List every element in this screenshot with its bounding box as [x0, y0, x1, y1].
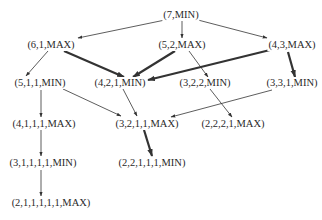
- edge-arrow: [78, 20, 165, 38]
- tree-node: (4,1,1,1,MAX): [12, 118, 77, 130]
- tree-node: (3,2,1,1,MAX): [115, 118, 180, 130]
- edge-arrow: [26, 51, 48, 76]
- tree-node: (4,2,1,MIN): [93, 77, 146, 89]
- edge-arrow: [123, 89, 137, 116]
- edge-arrow-bold: [64, 51, 124, 77]
- edge-arrow: [189, 51, 208, 77]
- tree-node: (5,2,MAX): [157, 39, 206, 51]
- tree-node: (5,1,1,MIN): [13, 77, 66, 89]
- edge-arrow: [198, 20, 267, 38]
- edge-arrow-bold: [144, 130, 152, 156]
- tree-node: (6,1,MAX): [26, 39, 75, 51]
- tree-node: (3,2,2,MIN): [178, 77, 231, 89]
- game-tree-diagram: (7,MIN)(6,1,MAX)(5,2,MAX)(4,3,MAX)(5,1,1…: [0, 0, 322, 220]
- tree-node: (3,1,1,1,1,MIN): [9, 157, 78, 169]
- edges-layer: [0, 0, 322, 220]
- edge-arrow: [63, 89, 121, 116]
- tree-node: (2,1,1,1,1,1,MAX): [11, 197, 92, 209]
- tree-node: (2,2,2,1,MAX): [201, 118, 266, 130]
- tree-node: (7,MIN): [162, 9, 199, 21]
- edge-arrow-bold: [133, 51, 175, 77]
- edge-arrow: [210, 89, 232, 117]
- tree-node: (4,3,MAX): [267, 39, 316, 51]
- tree-node: (2,2,1,1,1,MIN): [118, 157, 187, 169]
- edge-arrow-bold: [288, 52, 295, 77]
- tree-node: (3,3,1,MIN): [265, 77, 318, 89]
- edge-arrow-bold: [148, 50, 270, 80]
